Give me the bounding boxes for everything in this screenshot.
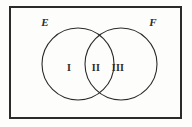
region-label-2: II xyxy=(92,62,100,73)
set-label-e: E xyxy=(40,16,48,28)
region-label-1: I xyxy=(67,62,71,73)
set-label-f: F xyxy=(148,16,157,28)
set-circle-e xyxy=(42,28,114,100)
venn-diagram-canvas: E F I II III xyxy=(0,0,192,127)
region-label-3: III xyxy=(112,62,125,73)
venn-diagram-figure: E F I II III xyxy=(0,0,192,127)
